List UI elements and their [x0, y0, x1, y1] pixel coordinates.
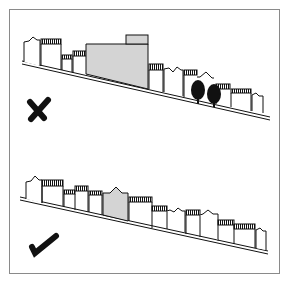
- panel-correct: [20, 176, 268, 254]
- panel-incorrect: [22, 35, 270, 120]
- streetscape-diagram: [0, 0, 289, 283]
- cross-mark-icon: [30, 100, 48, 119]
- infill-building: [103, 187, 128, 221]
- tree-icon: [191, 80, 205, 104]
- check-mark-icon: [32, 236, 56, 253]
